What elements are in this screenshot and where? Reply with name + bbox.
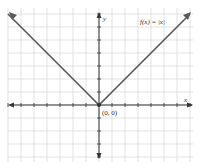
origin-label: (0, 0) bbox=[102, 109, 118, 117]
absolute-value-graph: y x f(x) = |x| (0, 0) bbox=[0, 0, 201, 168]
grid-lines bbox=[8, 8, 193, 162]
y-axis-down-arrow-icon bbox=[97, 153, 102, 159]
y-axis-label: y bbox=[102, 15, 107, 23]
y-axis bbox=[97, 12, 102, 159]
origin-point bbox=[97, 103, 101, 107]
x-axis-left-arrow-icon bbox=[8, 103, 14, 108]
function-label: f(x) = |x| bbox=[140, 18, 165, 26]
y-axis-up-arrow-icon bbox=[97, 12, 102, 18]
